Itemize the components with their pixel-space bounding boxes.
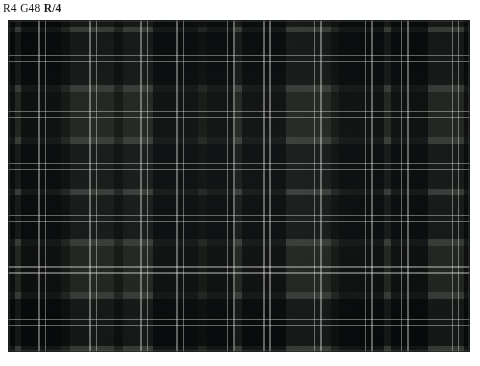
swatch-caption: R4G48R/4 — [3, 1, 61, 15]
swatch-border — [8, 20, 470, 352]
weft-stripe-layer — [8, 20, 470, 352]
caption-segment-green: G48 — [20, 2, 40, 14]
caption-segment-pivot-red: R/4 — [44, 2, 62, 14]
scan-vignette — [8, 20, 470, 352]
caption-segment-warp-red: R4 — [3, 2, 17, 14]
tartan-plaid-fabric-swatch — [8, 20, 470, 352]
halftone-dither-texture — [8, 20, 470, 352]
twill-weave-texture — [8, 20, 470, 352]
overcheck-vertical-layer — [8, 20, 470, 352]
warp-stripe-layer — [8, 20, 470, 352]
page-root: R4G48R/4 — [0, 0, 480, 366]
overcheck-horizontal-layer — [8, 20, 470, 352]
